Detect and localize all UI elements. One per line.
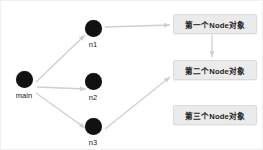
edge-main-to-n2 bbox=[37, 87, 86, 89]
node-main-label: main bbox=[4, 91, 44, 100]
object-box-second[interactable]: 第二个Node对象 bbox=[173, 60, 257, 80]
object-box-third[interactable]: 第三个Node对象 bbox=[173, 105, 257, 125]
object-box-third-label: 第三个Node对象 bbox=[185, 110, 245, 121]
node-n3-label: n3 bbox=[73, 138, 113, 147]
diagram-canvas: main n1 n2 n3 第一个Node对象 第二个Node对象 第三个Nod… bbox=[0, 0, 263, 150]
object-box-first[interactable]: 第一个Node对象 bbox=[173, 14, 257, 34]
edge-n3-to-box2 bbox=[105, 77, 170, 129]
node-n3[interactable] bbox=[85, 118, 102, 135]
node-n1-label: n1 bbox=[73, 40, 113, 49]
object-box-second-label: 第二个Node对象 bbox=[185, 65, 245, 76]
node-n2-label: n2 bbox=[73, 93, 113, 102]
node-n2[interactable] bbox=[85, 73, 102, 90]
node-main[interactable] bbox=[16, 71, 33, 88]
object-box-first-label: 第一个Node对象 bbox=[185, 19, 245, 30]
node-n1[interactable] bbox=[85, 20, 102, 37]
edge-n1-to-box1 bbox=[105, 25, 170, 27]
